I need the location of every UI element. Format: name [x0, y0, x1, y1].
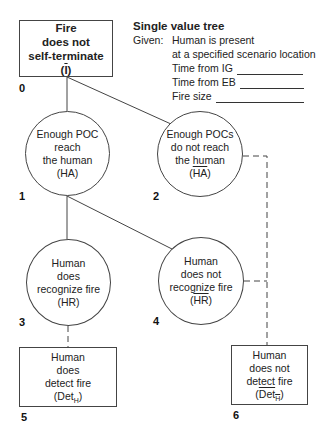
node-0-line-3: self-terminate — [28, 49, 103, 63]
node-4-line-3: recognize fire — [169, 281, 232, 294]
info-panel: Single value tree Given: Human is presen… — [133, 19, 316, 103]
node-0-line-1: Fire — [55, 21, 76, 35]
field-blank-time-from-eb[interactable] — [240, 78, 304, 89]
node-3-symbol: (HR) — [57, 296, 79, 309]
node-0-fire-does-not-self-terminate: Fire does not self-terminate (I) — [19, 20, 113, 77]
field-blank-fire-size[interactable] — [216, 92, 304, 103]
given-line-1: Human is present — [172, 33, 254, 47]
node-2-number: 2 — [153, 190, 159, 202]
node-6-line-3: detect fire — [246, 375, 292, 388]
field-label-fire-size: Fire size — [172, 89, 212, 103]
node-5-symbol: (DetH) — [54, 390, 82, 403]
node-3-line-3: recognize fire — [37, 283, 100, 296]
node-5-line-1: Human — [51, 351, 85, 364]
info-title: Single value tree — [133, 19, 316, 33]
node-4-human-does-not-recognize-fire: Human does not recognize fire (HR) — [158, 237, 244, 325]
node-1-symbol: (HA) — [57, 167, 79, 180]
node-3-number: 3 — [19, 316, 25, 328]
node-5-human-does-detect-fire: Human does detect fire (DetH) — [19, 347, 117, 407]
node-4-line-2: does not — [181, 268, 221, 281]
node-0-symbol: (I) — [61, 63, 72, 77]
edge-2-6 — [243, 156, 267, 345]
node-5-number: 5 — [21, 411, 27, 423]
field-label-time-from-ig: Time from IG — [172, 61, 233, 75]
field-blank-time-from-ig[interactable] — [237, 64, 303, 75]
node-1-line-2: reach — [54, 141, 80, 154]
node-2-enough-pocs-do-not-reach-human: Enough POCs do not reach the human (HA) — [157, 111, 243, 197]
node-2-line-1: Enough POCs — [166, 128, 233, 141]
node-6-human-does-not-detect-fire: Human does not detect fire (DetH) — [231, 345, 308, 405]
given-line-2: at a specified scenario location — [172, 47, 316, 61]
node-5-line-2: does — [57, 364, 80, 377]
node-6-line-2: does not — [249, 362, 289, 375]
node-1-line-3: the human — [43, 154, 93, 167]
node-2-line-2: do not reach — [171, 141, 229, 154]
node-6-line-1: Human — [253, 349, 287, 362]
given-label: Given: — [133, 33, 172, 47]
node-2-line-3: the human — [175, 154, 225, 167]
node-1-number: 1 — [19, 190, 25, 202]
node-2-symbol: (HA) — [189, 167, 211, 180]
node-6-symbol: (DetH) — [255, 388, 283, 401]
node-1-enough-poc-reach-human: Enough POC reach the human (HA) — [25, 111, 110, 196]
node-4-number: 4 — [153, 315, 159, 327]
node-0-number: 0 — [19, 82, 25, 94]
node-1-line-1: Enough POC — [37, 128, 99, 141]
node-3-human-does-recognize-fire: Human does recognize fire (HR) — [26, 239, 111, 326]
field-label-time-from-eb: Time from EB — [172, 75, 236, 89]
node-0-line-2: does not — [42, 35, 90, 49]
node-3-line-2: does — [57, 270, 80, 283]
node-4-line-1: Human — [184, 255, 218, 268]
node-6-number: 6 — [233, 409, 239, 421]
node-3-line-1: Human — [52, 257, 86, 270]
node-5-line-3: detect fire — [45, 377, 91, 390]
node-4-symbol: (HR) — [190, 294, 212, 307]
